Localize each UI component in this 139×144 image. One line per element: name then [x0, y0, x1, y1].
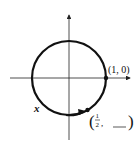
unit-circle-diagram: (1, 0) x ( 1 2 , ) [0, 0, 139, 144]
end-label-numerator: 1 [96, 112, 100, 120]
end-label-comma: , [101, 118, 103, 128]
end-label-close: ) [128, 112, 134, 131]
start-point-label: (1, 0) [108, 64, 130, 76]
arc-label: x [33, 102, 40, 114]
end-label-denominator: 2 [96, 121, 100, 129]
end-label-open: ( [89, 112, 95, 131]
start-point [104, 76, 108, 80]
